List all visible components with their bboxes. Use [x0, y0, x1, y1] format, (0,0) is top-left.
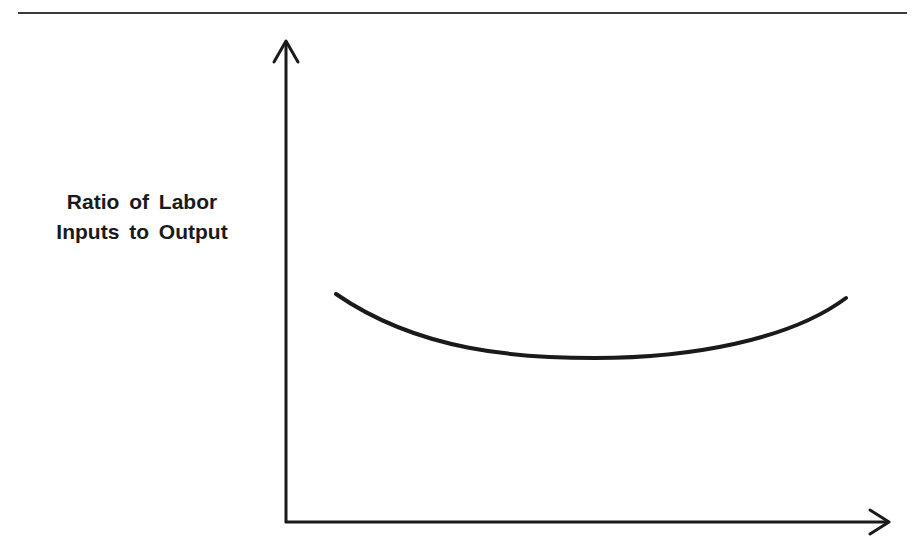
y-axis-label: Ratio of Labor Inputs to Output — [24, 187, 260, 247]
chart-canvas — [0, 0, 922, 538]
y-axis-label-line-1: Ratio of Labor — [24, 187, 260, 217]
y-axis-label-line-2: Inputs to Output — [24, 217, 260, 247]
y-axis — [274, 41, 298, 523]
x-axis — [285, 510, 889, 534]
u-shaped-curve — [336, 294, 846, 358]
